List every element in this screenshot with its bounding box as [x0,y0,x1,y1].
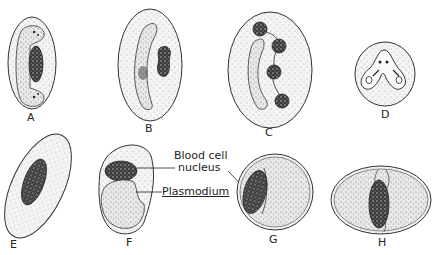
cell-c [228,12,312,128]
panel-label-d: D [381,108,389,121]
panel-label-e: E [10,238,17,251]
panel-label-f: F [126,236,132,249]
annotation-nucleus-line2: nucleus [174,162,227,174]
panel-label-g: G [269,233,278,246]
cell-a [8,17,56,109]
panel-label-b: B [145,122,153,135]
cell-b [118,9,182,121]
cell-h [331,166,431,234]
cell-g [237,154,313,230]
annotation-blood-cell-nucleus: Blood cell nucleus [174,150,227,174]
panel-label-h: H [378,236,386,249]
panel-label-a: A [27,111,35,124]
cell-d [355,42,415,106]
panel-label-c: C [265,126,273,139]
annotation-plasmodium: Plasmodium [162,186,229,198]
plasmodium-stages-diagram: A B C D E F G H Blood cell nucleus Plasm… [0,0,433,255]
cell-e [0,124,85,247]
diagram-drawing [0,0,433,255]
